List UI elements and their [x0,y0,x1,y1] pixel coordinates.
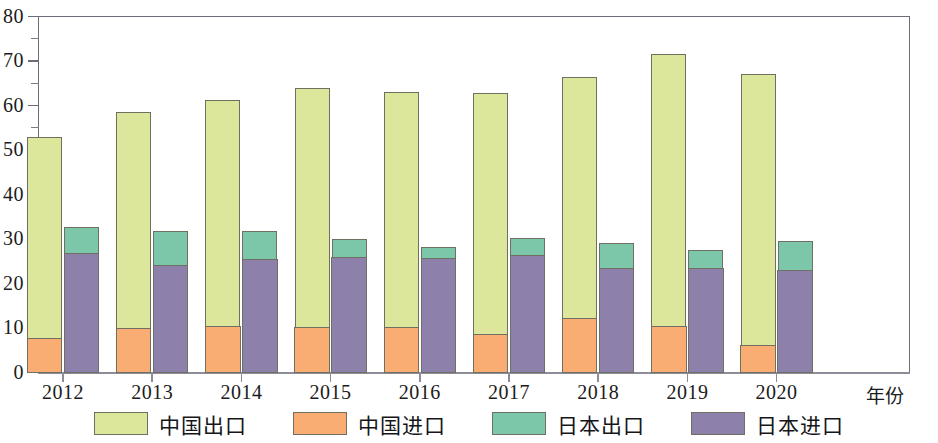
legend-item-3[interactable]: 日本进口 [691,409,844,439]
bar-japan-2014-lower-segment [242,259,278,372]
y-axis-minor-tick [31,38,39,39]
y-axis-tick-label: 0 [0,362,24,382]
y-axis-minor-tick [31,127,39,128]
y-axis-tick-label: 60 [0,95,24,115]
bar-china-2017-lower-segment [473,334,509,373]
bar-japan-2015-lower-segment [331,257,367,373]
chart-legend: 中国出口中国进口日本出口日本进口 [0,404,938,443]
bar-china-2013-lower-segment [116,328,152,373]
y-axis-tick [28,60,39,62]
bar-china-2012 [27,137,62,372]
bar-china-2016-lower-segment [384,327,420,373]
bar-japan-2019-lower-segment [688,268,724,373]
bar-japan-2016 [421,247,456,372]
bar-japan-2013-lower-segment [153,265,189,373]
bar-china-2020-lower-segment [740,345,776,373]
legend-label: 中国进口 [358,409,446,439]
bar-china-2016 [384,92,419,373]
legend-label: 日本进口 [756,409,844,439]
bar-china-2020 [741,74,776,372]
bar-japan-2012 [64,227,99,373]
bar-china-2018-lower-segment [562,318,598,373]
bar-china-2017 [473,93,508,373]
legend-item-1[interactable]: 中国进口 [293,409,446,439]
y-axis-tick [28,16,39,18]
x-axis-tick-label: 2015 [286,381,376,403]
y-axis-tick [28,105,39,107]
chart-root: 01020304050607080 2012201320142015201620… [0,0,938,443]
legend-label: 中国出口 [159,409,247,439]
legend-swatch-icon [94,412,148,435]
legend-swatch-icon [691,412,745,435]
bar-japan-2018-lower-segment [599,268,635,373]
y-axis-tick-label: 80 [0,6,24,26]
bar-china-2012-lower-segment [27,338,63,373]
y-axis-minor-tick [31,83,39,84]
bar-china-2019-lower-segment [651,326,687,373]
bar-japan-2013 [153,231,188,373]
bar-china-2019 [651,54,686,373]
bar-japan-2016-lower-segment [421,258,457,373]
bar-china-2015-lower-segment [294,327,330,373]
bar-china-2015 [295,88,330,373]
bar-japan-2018 [599,243,634,373]
legend-swatch-icon [293,412,347,435]
y-axis-tick-label: 70 [0,50,24,70]
bar-japan-2017-lower-segment [510,255,546,373]
bar-china-2013 [116,112,151,373]
bar-china-2018 [562,77,597,372]
x-axis-tick-label: 2020 [732,381,822,403]
bar-japan-2012-lower-segment [64,253,100,373]
y-axis-tick-label: 40 [0,184,24,204]
y-axis-tick-label: 10 [0,317,24,337]
legend-item-2[interactable]: 日本出口 [492,409,645,439]
y-axis-tick-label: 20 [0,273,24,293]
x-axis-tick-label: 2013 [107,381,197,403]
bar-china-2014-lower-segment [205,326,241,373]
bar-japan-2017 [510,238,545,372]
legend-swatch-icon [492,412,546,435]
bar-japan-2019 [688,250,723,372]
y-axis-tick-label: 30 [0,228,24,248]
bar-china-2014 [205,100,240,373]
x-axis-tick-label: 2018 [553,381,643,403]
x-axis-tick-label: 2012 [18,381,108,403]
bar-japan-2020 [778,241,813,372]
x-axis-tick-label: 2017 [464,381,554,403]
legend-item-0[interactable]: 中国出口 [94,409,247,439]
bar-japan-2014 [242,231,277,373]
y-axis-tick-label: 50 [0,139,24,159]
bar-japan-2015 [332,239,367,373]
bar-japan-2020-lower-segment [777,270,813,372]
legend-label: 日本出口 [557,409,645,439]
x-axis-tick-label: 2016 [375,381,465,403]
x-axis-tick-label: 2014 [196,381,286,403]
x-axis-tick-label: 2019 [642,381,732,403]
